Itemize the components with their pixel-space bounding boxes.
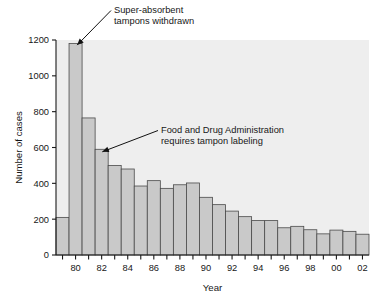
y-axis-tick-label: 1200 xyxy=(28,35,49,45)
bar xyxy=(160,188,173,255)
bar xyxy=(56,217,69,255)
x-axis-tick-label: 90 xyxy=(201,263,211,273)
bar xyxy=(147,181,160,255)
x-axis-tick-label: 00 xyxy=(331,263,341,273)
bar xyxy=(252,221,265,255)
bar xyxy=(134,186,147,255)
bar xyxy=(95,149,108,255)
annotation-2-line-1: Food and Drug Administration xyxy=(161,125,284,135)
annotation-2-line-2: requires tampon labeling xyxy=(161,136,263,146)
bar xyxy=(226,211,239,255)
x-axis-tick-label: 82 xyxy=(96,263,106,273)
bar xyxy=(278,228,291,255)
annotation-1-line-2: tampons withdrawn xyxy=(114,16,194,26)
x-axis-tick-label: 98 xyxy=(305,263,315,273)
bar xyxy=(173,185,186,255)
bar xyxy=(108,165,121,255)
bar xyxy=(343,231,356,255)
bar xyxy=(186,183,199,255)
x-axis-tick-label: 86 xyxy=(149,263,159,273)
y-axis-tick-label: 0 xyxy=(44,250,49,260)
x-axis-tick-label: 88 xyxy=(175,263,185,273)
bar xyxy=(265,221,278,255)
y-axis-tick-label: 600 xyxy=(33,143,49,153)
y-axis-tick-label: 1000 xyxy=(28,71,49,81)
x-axis-tick-label: 80 xyxy=(70,263,80,273)
toxic-shock-cases-bar-chart: 0200400600800100012008082848688909294969… xyxy=(0,0,391,303)
bar xyxy=(356,234,369,255)
bar xyxy=(199,197,212,255)
bar xyxy=(330,230,343,255)
annotation-1-line-1: Super-absorbent xyxy=(114,5,184,15)
y-axis-tick-label: 400 xyxy=(33,179,49,189)
chart-container: 0200400600800100012008082848688909294969… xyxy=(0,0,391,303)
y-axis-tick-label: 800 xyxy=(33,107,49,117)
bar xyxy=(69,44,82,255)
x-axis-tick-label: 02 xyxy=(357,263,367,273)
y-axis-title: Number of cases xyxy=(13,111,24,184)
x-axis-tick-label: 92 xyxy=(227,263,237,273)
x-axis-tick-label: 84 xyxy=(123,263,133,273)
bar xyxy=(304,230,317,255)
bar xyxy=(291,226,304,255)
x-axis-title: Year xyxy=(203,282,223,293)
x-axis-tick-label: 94 xyxy=(253,263,263,273)
bar xyxy=(317,234,330,255)
y-axis-tick-label: 200 xyxy=(33,215,49,225)
bar xyxy=(239,217,252,255)
bar xyxy=(82,118,95,255)
bar xyxy=(213,205,226,255)
x-axis-tick-label: 96 xyxy=(279,263,289,273)
annotation-arrow-1-leader xyxy=(77,11,111,46)
bar xyxy=(121,169,134,255)
annotation-arrow-1 xyxy=(77,11,111,46)
